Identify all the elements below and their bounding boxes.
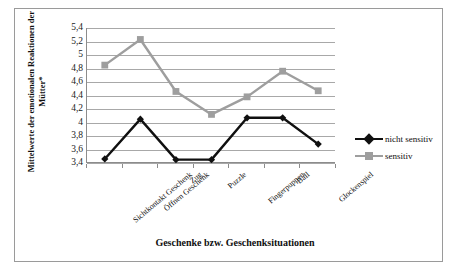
y-axis-tick-label: 3,8 [59,131,83,141]
y-axis-title: Mittelwerte der emotionalen Reaktionen d… [26,4,47,180]
x-axis-tick-mark [157,164,158,168]
y-axis-tick-label: 3,4 [59,158,83,168]
x-axis-tick-mark [86,164,87,168]
plot-svg [87,28,336,163]
x-axis-title: Geschenke bzw. Geschenksituationen [75,237,395,248]
x-axis-category-label: Glockenspiel [337,170,375,204]
legend-swatch-icon [355,133,383,144]
y-axis-tick-label: 3,6 [59,145,83,155]
y-axis-tick-label: 4,2 [59,104,83,114]
data-point-marker [279,68,286,75]
y-axis-tick-label: 4,6 [59,77,83,87]
y-axis-ticks: 5,45,254,84,64,44,243,83,63,4 [59,28,83,163]
legend-item[interactable]: nicht sensitiv [355,131,451,146]
y-axis-title-line2: Mütter* [37,4,48,180]
y-axis-tick-label: 5 [59,50,83,60]
data-point-marker [101,62,108,69]
legend-label: nicht sensitiv [385,134,433,144]
series-line-sensitiv [105,39,318,114]
figure-frame: Mittelwerte der emotionalen Reaktionen d… [14,8,443,262]
x-axis-category-labels: Sichtkontakt GeschenkÖffnen GeschenkZugP… [86,164,335,222]
data-point-marker [137,36,144,43]
x-axis-tick-mark [228,164,229,168]
y-axis-tick-label: 5,4 [59,23,83,33]
legend-marker-diamond-icon [363,133,374,144]
x-axis-tick-mark [335,164,336,168]
data-point-marker [173,88,180,95]
y-axis-tick-label: 5,2 [59,37,83,47]
y-axis-title-line1: Mittelwerte der emotionalen Reaktionen d… [26,4,37,180]
x-axis-tick-mark [193,164,194,168]
y-axis-tick-label: 4,8 [59,64,83,74]
y-axis-tick-label: 4 [59,118,83,128]
legend-label: sensitiv [385,151,413,161]
plot-area [86,28,335,163]
legend-marker-square-icon [365,152,373,160]
x-axis-category-label: Puzzle [225,170,247,191]
x-axis-tick-mark [299,164,300,168]
series-line-nicht-sensitiv [105,118,318,160]
data-point-marker [208,111,215,118]
data-point-marker [244,93,251,100]
chart-legend: nicht sensitivsensitiv [355,131,451,165]
chart-screenshot: Mittelwerte der emotionalen Reaktionen d… [0,0,460,273]
y-axis-tick-label: 4,4 [59,91,83,101]
data-point-marker [315,87,322,94]
x-axis-tick-mark [264,164,265,168]
legend-swatch-icon [355,150,383,161]
legend-item[interactable]: sensitiv [355,148,451,163]
x-axis-tick-mark [122,164,123,168]
